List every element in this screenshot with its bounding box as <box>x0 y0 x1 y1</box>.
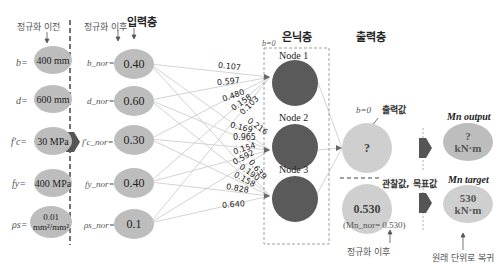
raw-input-value-line2: mm²/mm² <box>33 222 69 232</box>
raw-input-symbol: fy= <box>12 178 26 189</box>
mn-output-unit: kN·m <box>455 142 482 154</box>
norm-input-symbol: b_nor= <box>87 58 115 68</box>
hidden-layer-title: 은닉층 <box>282 28 312 44</box>
input-layer-title: 입력층 <box>127 13 157 29</box>
mn-target-title: Mn target <box>448 174 489 185</box>
norm-input-value: 0.60 <box>114 86 154 116</box>
norm-input-symbol: d_nor= <box>87 96 115 106</box>
norm-input-symbol: fy_nor= <box>85 179 115 189</box>
target-norm-caption: (Mn_nor= 0.530) <box>343 220 406 230</box>
mn-output-title: Mn output <box>447 111 491 122</box>
restore-unit-caption: 원래 단위로 복귀 <box>432 251 494 264</box>
hidden-bias-label: b=0 <box>262 39 275 48</box>
norm-input-value: 0.40 <box>114 168 154 198</box>
mn-output-value: ? <box>465 130 471 142</box>
raw-input-value: 30 MPa <box>34 127 72 155</box>
before-normalization-header: 정규화 이전 <box>17 20 60 33</box>
output-layer-title: 출력층 <box>356 28 386 44</box>
hidden-node-circle <box>272 60 318 106</box>
observed-target-caption: 관찰값, 목표값 <box>382 177 437 190</box>
after-normalization-caption: 정규화 이후 <box>347 245 390 258</box>
raw-input-value: 0.01 mm²/mm² <box>30 206 72 238</box>
mn-target-value: 530 <box>460 192 477 204</box>
output-node: ? <box>342 123 392 173</box>
raw-input-value-line1: 0.01 <box>43 212 59 222</box>
hidden-node-label: Node 3 <box>279 164 308 175</box>
norm-input-value: 0.30 <box>114 125 154 155</box>
mn-target-oval: 530 kN·m <box>443 185 493 223</box>
raw-input-value: 600 mm <box>34 85 72 113</box>
mn-output-oval: ? kN·m <box>443 123 493 161</box>
raw-input-value: 400 mm <box>34 46 72 74</box>
norm-input-value: 0.1 <box>114 209 154 239</box>
raw-input-symbol: f'c= <box>11 136 27 147</box>
raw-input-symbol: ρs= <box>12 219 27 230</box>
mn-target-unit: kN·m <box>455 204 482 216</box>
hidden-node-circle <box>272 176 318 222</box>
norm-input-symbol: ρs_nor= <box>84 220 115 230</box>
raw-input-symbol: d= <box>16 95 28 106</box>
after-normalization-header: 정규화 이후 <box>84 20 127 33</box>
raw-input-value: 400 MPa <box>34 169 72 197</box>
raw-input-symbol: b= <box>16 57 28 68</box>
output-value-caption: 출력값 <box>382 103 406 116</box>
hidden-node-label: Node 2 <box>279 112 308 123</box>
norm-input-symbol: f'c_nor= <box>82 137 114 147</box>
norm-input-value: 0.40 <box>114 49 154 79</box>
output-bias-label: b=0 <box>356 105 371 115</box>
